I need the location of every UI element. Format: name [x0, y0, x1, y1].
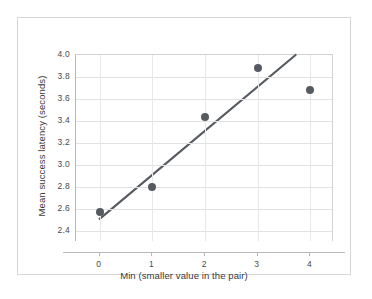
x-axis-tick-mark [99, 252, 100, 256]
gridline-vertical [258, 55, 259, 241]
gridline-vertical [152, 55, 153, 241]
gridline-horizontal [76, 165, 332, 166]
gridline-horizontal [76, 77, 332, 78]
gridline-horizontal [76, 143, 332, 144]
chart-figure-card: 2.42.62.83.03.23.43.63.84.0 Min (smaller… [17, 17, 351, 275]
x-axis-tick-mark [151, 252, 152, 256]
x-axis-tick-mark [204, 252, 205, 256]
y-axis-tick-label: 2.8 [58, 181, 70, 191]
y-axis-tick-label: 3.4 [58, 115, 70, 125]
y-axis-tick-label: 2.4 [58, 225, 70, 235]
x-axis-tick-mark [257, 252, 258, 256]
y-axis-tick-label: 3.6 [58, 93, 70, 103]
x-axis-tick-label: 4 [307, 259, 312, 269]
y-axis-tick-label: 3.8 [58, 71, 70, 81]
gridline-vertical [310, 55, 311, 241]
x-axis-tick-mark [309, 252, 310, 256]
y-axis-tick-label: 3.2 [58, 137, 70, 147]
gridline-vertical [205, 55, 206, 241]
y-axis-tick-label: 2.6 [58, 203, 70, 213]
gridline-horizontal [76, 231, 332, 232]
data-point [254, 64, 262, 72]
gridline-horizontal [76, 187, 332, 188]
plot-area [75, 54, 333, 241]
x-axis-tick-label: 1 [149, 259, 154, 269]
trend-line-segment [100, 55, 296, 219]
y-axis-tick-label: 3.0 [58, 159, 70, 169]
x-axis-tick-label: 3 [254, 259, 259, 269]
x-axis-tick-label: 2 [202, 259, 207, 269]
gridline-horizontal [76, 121, 332, 122]
x-axis-title: Min (smaller value in the pair) [18, 270, 350, 281]
gridline-horizontal [76, 99, 332, 100]
gridline-horizontal [76, 209, 332, 210]
x-axis-tick-label: 0 [96, 259, 101, 269]
y-axis-title: Mean success latency (seconds) [36, 51, 47, 241]
y-axis-tick-label: 4.0 [58, 49, 70, 59]
data-point [96, 208, 104, 216]
data-point [201, 113, 209, 121]
